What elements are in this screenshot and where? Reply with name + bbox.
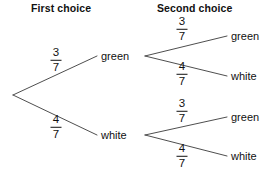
- denominator: 7: [178, 113, 186, 125]
- denominator: 7: [178, 31, 186, 43]
- probability-stage2-green-green: 3 7: [177, 16, 188, 42]
- node-label-stage2-green-white: white: [231, 70, 257, 82]
- numerator: 3: [52, 47, 60, 59]
- probability-stage2-green-white: 4 7: [177, 61, 188, 87]
- denominator: 7: [178, 158, 186, 170]
- numerator: 4: [52, 114, 60, 126]
- numerator: 4: [178, 143, 186, 155]
- column-header-second-choice: Second choice: [157, 2, 232, 14]
- node-label-stage1-green: green: [101, 50, 129, 62]
- probability-stage2-white-white: 4 7: [177, 143, 188, 169]
- numerator: 3: [178, 16, 186, 28]
- node-label-stage2-white-white: white: [231, 150, 257, 162]
- node-label-stage2-green-green: green: [231, 30, 259, 42]
- probability-stage1-white: 4 7: [51, 114, 62, 140]
- node-label-stage2-white-green: green: [231, 111, 259, 123]
- numerator: 3: [178, 98, 186, 110]
- probability-stage2-white-green: 3 7: [177, 98, 188, 124]
- node-label-stage1-white: white: [101, 129, 127, 141]
- column-header-first-choice: First choice: [31, 2, 91, 14]
- probability-stage1-green: 3 7: [51, 47, 62, 73]
- denominator: 7: [52, 129, 60, 141]
- denominator: 7: [178, 76, 186, 88]
- denominator: 7: [52, 62, 60, 74]
- probability-tree-diagram: First choice Second choice green white g…: [0, 0, 271, 177]
- numerator: 4: [178, 61, 186, 73]
